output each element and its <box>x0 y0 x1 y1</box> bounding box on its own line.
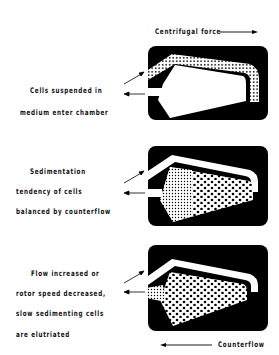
chamber-panel-3 <box>146 245 268 331</box>
panel-2-line-1: Sedimentation <box>30 167 86 176</box>
panel-3-line-2: rotor speed decreased, <box>16 289 106 298</box>
counterflow-label: Counterflow <box>218 340 265 349</box>
chamber-panel-1 <box>146 46 268 120</box>
panel-3-line-3: slow sedimenting cells <box>16 309 104 318</box>
panel-2-line-2: tendency of cells <box>16 187 82 196</box>
centrifugal-force-label: Centrifugal force <box>155 27 221 36</box>
chamber-panel-2 <box>146 146 268 226</box>
counterflow-arrow-icon <box>160 343 212 347</box>
panel-1-line-2: medium enter chamber <box>20 108 109 117</box>
centrifugal-force-arrow-icon <box>220 30 258 34</box>
flow-arrows-icon <box>124 72 145 294</box>
panel-3-line-4: are elutriated <box>16 330 70 339</box>
elutriation-diagram <box>0 0 279 355</box>
panel-2-line-3: balanced by counterflow <box>16 207 111 216</box>
panel-1-line-1: Cells suspended in <box>30 86 102 95</box>
panel-3-line-1: Flow increased or <box>31 269 100 278</box>
